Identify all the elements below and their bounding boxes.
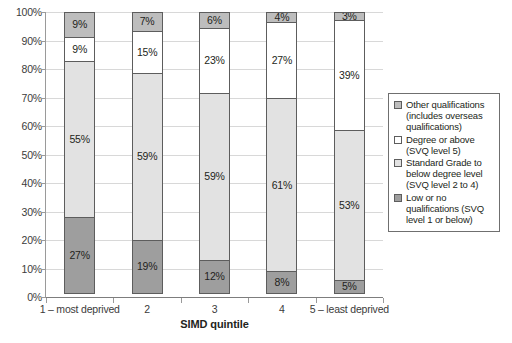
y-tick-mark [41, 269, 46, 270]
bar-segment[interactable]: 12% [199, 260, 230, 294]
bar-segment-label: 59% [204, 171, 224, 182]
x-axis-line [45, 297, 383, 298]
legend-swatch [394, 136, 402, 144]
y-tick-mark [41, 240, 46, 241]
y-tick-label: 20% [0, 235, 42, 245]
bar-stack[interactable]: 9%9%55%27% [64, 12, 95, 297]
bar-segment-label: 9% [72, 19, 87, 30]
bar-segment-label: 55% [69, 134, 89, 145]
legend-item[interactable]: Degree or above (SVQ level 5) [394, 134, 495, 156]
bar-segment[interactable]: 9% [64, 12, 95, 38]
bar-segment[interactable]: 7% [132, 12, 163, 32]
plot-area: 9%9%55%27%7%15%59%19%6%23%59%12%4%27%61%… [46, 12, 383, 297]
bar-segment[interactable]: 55% [64, 61, 95, 218]
bar-segment-label: 27% [272, 55, 292, 66]
chart-legend: Other qualifications (includes overseas … [388, 93, 500, 232]
y-tick-mark [41, 126, 46, 127]
bar-segment-label: 27% [69, 250, 89, 261]
y-tick-label: 100% [0, 7, 42, 17]
bar-segment-label: 5% [342, 281, 357, 292]
bar-segment[interactable]: 53% [334, 130, 365, 281]
bar-segment[interactable]: 39% [334, 20, 365, 131]
legend-label: Degree or above (SVQ level 5) [406, 134, 495, 156]
y-tick-mark [41, 98, 46, 99]
y-tick-label: 10% [0, 264, 42, 274]
y-tick-label: 0% [0, 292, 42, 302]
bar-segment-label: 7% [140, 16, 155, 27]
bar-segment[interactable]: 27% [64, 217, 95, 294]
legend-swatch [394, 194, 402, 202]
legend-label: Other qualifications (includes overseas … [406, 99, 495, 133]
bar-segment-label: 61% [272, 180, 292, 191]
y-tick-mark [41, 41, 46, 42]
legend-swatch [394, 101, 402, 109]
y-axis: 0%10%20%30%40%50%60%70%80%90%100% [0, 0, 42, 343]
bar-segment[interactable]: 61% [266, 98, 297, 272]
y-tick-mark [41, 183, 46, 184]
y-tick-mark [41, 69, 46, 70]
bar-segment-label: 23% [204, 55, 224, 66]
bar-segment[interactable]: 9% [64, 37, 95, 63]
legend-item[interactable]: Low or no qualifications (SVQ level 1 or… [394, 192, 495, 226]
y-tick-label: 90% [0, 36, 42, 46]
y-tick-label: 80% [0, 64, 42, 74]
bar-segment-label: 19% [137, 261, 157, 272]
x-tick-mark [113, 298, 114, 303]
bar-stack[interactable]: 6%23%59%12% [199, 12, 230, 297]
y-tick-label: 60% [0, 121, 42, 131]
y-tick-mark [41, 12, 46, 13]
bar-segment-label: 9% [72, 44, 87, 55]
bar-segment-label: 59% [137, 151, 157, 162]
x-tick-mark [316, 298, 317, 303]
bar-segment-label: 6% [207, 15, 222, 26]
y-tick-mark [41, 212, 46, 213]
bar-segment[interactable]: 6% [199, 12, 230, 29]
bar-segment-label: 15% [137, 47, 157, 58]
y-tick-label: 30% [0, 207, 42, 217]
x-tick-mark [383, 298, 384, 303]
bar-segment[interactable]: 8% [266, 271, 297, 294]
bar-stack[interactable]: 3%39%53%5% [334, 12, 365, 297]
x-tick-label: 5 – least deprived [306, 303, 392, 316]
stacked-bar-chart: 0%10%20%30%40%50%60%70%80%90%100% 9%9%55… [0, 0, 512, 343]
legend-item[interactable]: Other qualifications (includes overseas … [394, 99, 495, 133]
bar-segment-label: 8% [275, 277, 290, 288]
legend-label: Standard Grade to below degree level (SV… [406, 157, 495, 191]
y-tick-label: 40% [0, 178, 42, 188]
x-tick-mark [181, 298, 182, 303]
bar-segment[interactable]: 23% [199, 28, 230, 94]
bar-segment[interactable]: 27% [266, 22, 297, 99]
bar-stack[interactable]: 7%15%59%19% [132, 12, 163, 297]
bar-segment[interactable]: 19% [132, 240, 163, 294]
bar-segment[interactable]: 59% [199, 93, 230, 261]
legend-item[interactable]: Standard Grade to below degree level (SV… [394, 157, 495, 191]
legend-label: Low or no qualifications (SVQ level 1 or… [406, 192, 495, 226]
legend-swatch [394, 159, 402, 167]
bar-segment-label: 39% [339, 70, 359, 81]
bar-segment-label: 53% [339, 200, 359, 211]
bar-stack[interactable]: 4%27%61%8% [266, 12, 297, 297]
bar-segment[interactable]: 5% [334, 280, 365, 294]
x-tick-mark [248, 298, 249, 303]
y-tick-mark [41, 155, 46, 156]
y-tick-label: 70% [0, 93, 42, 103]
x-tick-mark [46, 298, 47, 303]
y-tick-label: 50% [0, 150, 42, 160]
bar-segment-label: 12% [204, 271, 224, 282]
x-axis-title: SIMD quintile [46, 318, 383, 330]
bar-segment[interactable]: 59% [132, 73, 163, 241]
bar-segment[interactable]: 15% [132, 31, 163, 74]
